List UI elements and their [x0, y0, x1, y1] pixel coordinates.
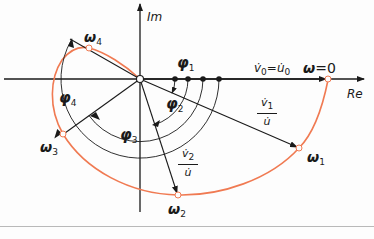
point-omega0 — [325, 76, 331, 82]
label-omega1: ω1 — [307, 150, 325, 167]
omega-symbol: ω — [168, 201, 180, 217]
phi-symbol: φ — [120, 126, 132, 144]
diagram-graphics — [0, 0, 374, 239]
phi-symbol: φ — [177, 54, 189, 72]
omega-subscript: 3 — [52, 147, 58, 157]
label-phi3: φ3 — [120, 128, 137, 145]
omega-symbol: ω — [40, 139, 52, 155]
omega-zero-suffix: =0 — [315, 60, 336, 76]
omega-symbol: ω — [84, 29, 96, 45]
label-omega4: ω4 — [84, 30, 102, 47]
real-axis-label: Re — [347, 88, 363, 100]
label-omega0: ω=0 — [303, 61, 336, 75]
u-symbol: u̇ — [277, 61, 285, 75]
phasor-v4 — [70, 39, 140, 79]
phi-symbol: φ — [166, 95, 178, 113]
omega-subscript: 2 — [180, 209, 186, 219]
point-omega3 — [60, 131, 66, 137]
omega-subscript: 4 — [96, 37, 102, 47]
fraction-denominator: u̇ — [257, 116, 277, 127]
omega-symbol: ω — [307, 149, 319, 165]
label-v1-over-u: v̇1 u̇ — [257, 97, 277, 127]
point-omega2 — [175, 192, 181, 198]
phi-symbol: φ — [59, 89, 71, 107]
equals-sign: = — [267, 61, 277, 75]
phi-subscript: 2 — [178, 104, 184, 114]
omega-subscript: 1 — [319, 157, 325, 167]
fraction-bar — [178, 164, 198, 165]
omega-symbol: ω — [303, 60, 315, 76]
label-omega2: ω2 — [168, 202, 186, 219]
fraction-numerator: v̇2 — [178, 148, 198, 162]
u-subscript: 0 — [285, 67, 291, 77]
fraction-numerator: v̇1 — [257, 97, 277, 111]
nyquist-diagram: Im Re ω=0 ω1 ω2 ω3 ω4 φ1 φ2 φ3 φ4 v̇0=u̇… — [0, 0, 374, 239]
origin-point — [137, 76, 144, 83]
label-v2-over-u: v̇2 u̇ — [178, 148, 198, 178]
phi-subscript: 3 — [132, 135, 138, 145]
fraction-denominator: u̇ — [178, 167, 198, 178]
phi-subscript: 4 — [71, 98, 77, 108]
label-v0-equals-u0: v̇0=u̇0 — [254, 62, 290, 77]
label-phi1: φ1 — [177, 56, 194, 73]
label-phi2: φ2 — [166, 97, 183, 114]
label-omega3: ω3 — [40, 140, 58, 157]
phi-subscript: 1 — [189, 63, 195, 73]
bottom-separator — [0, 226, 374, 227]
point-omega1 — [296, 145, 302, 151]
label-phi4: φ4 — [59, 91, 76, 108]
imag-axis-label: Im — [147, 11, 162, 23]
fraction-bar — [257, 113, 277, 114]
